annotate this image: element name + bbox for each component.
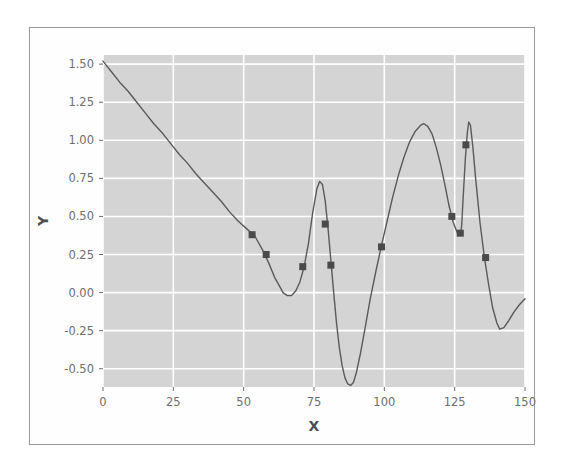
figure-canvas: -0.50-0.250.000.250.500.751.001.251.5002…	[0, 0, 564, 472]
data-marker-6[interactable]	[448, 213, 455, 220]
data-marker-1[interactable]	[263, 251, 270, 258]
xtick-label-4: 100	[373, 395, 395, 409]
data-marker-2[interactable]	[299, 263, 306, 270]
data-marker-5[interactable]	[378, 243, 385, 250]
data-marker-7[interactable]	[457, 230, 464, 237]
ytick-label-8: 1.50	[68, 57, 94, 71]
xtick-label-2: 50	[236, 395, 251, 409]
xtick-label-0: 0	[99, 395, 106, 409]
x-axis-title: X	[309, 418, 320, 434]
ytick-label-0: -0.50	[64, 362, 94, 376]
data-marker-3[interactable]	[322, 221, 329, 228]
xtick-label-3: 75	[307, 395, 322, 409]
ytick-label-3: 0.25	[68, 248, 94, 262]
ytick-label-5: 0.75	[68, 171, 94, 185]
data-marker-0[interactable]	[249, 231, 256, 238]
ytick-label-2: 0.00	[68, 286, 94, 300]
data-marker-9[interactable]	[482, 254, 489, 261]
ytick-label-1: -0.25	[64, 324, 94, 338]
data-marker-4[interactable]	[327, 262, 334, 269]
y-axis-title: Y	[35, 215, 51, 227]
plot-svg: -0.50-0.250.000.250.500.751.001.251.5002…	[0, 0, 564, 472]
data-marker-8[interactable]	[462, 141, 469, 148]
xtick-label-5: 125	[444, 395, 466, 409]
ytick-label-4: 0.50	[68, 209, 94, 223]
xtick-label-6: 150	[514, 395, 536, 409]
ytick-label-6: 1.00	[68, 133, 94, 147]
xtick-label-1: 25	[166, 395, 181, 409]
ytick-label-7: 1.25	[68, 95, 94, 109]
